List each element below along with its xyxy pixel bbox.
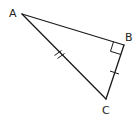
triangle [22,14,124,99]
vertex-label-c: C [102,104,110,117]
triangle-diagram: A B C [0,0,138,121]
vertex-label-a: A [9,7,17,20]
vertex-label-b: B [125,31,133,44]
double-tick-mark-ac [55,51,65,59]
